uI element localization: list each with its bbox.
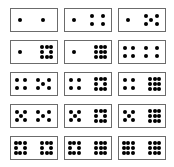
dot <box>157 119 161 123</box>
dot <box>94 141 98 145</box>
left-dot-group <box>65 105 83 127</box>
dot <box>122 146 126 150</box>
right-dot-group <box>29 41 57 63</box>
dot <box>49 50 53 54</box>
dot <box>144 14 148 18</box>
dot <box>131 86 135 90</box>
dot <box>131 46 135 50</box>
dot <box>153 151 157 155</box>
dot <box>157 141 161 145</box>
dot <box>23 146 27 150</box>
dot <box>15 118 19 122</box>
dot <box>99 87 103 91</box>
dot <box>14 141 18 145</box>
dot <box>99 141 103 145</box>
left-dot-group <box>65 41 83 63</box>
left-dot-group <box>11 73 29 95</box>
dot <box>99 50 103 54</box>
dot <box>153 114 157 118</box>
dot <box>94 87 98 91</box>
dot <box>144 54 148 58</box>
right-dot-group <box>137 105 165 127</box>
dot-card <box>118 104 166 128</box>
dot <box>23 78 27 82</box>
dot <box>99 109 103 113</box>
dot <box>23 86 27 90</box>
dot <box>40 45 44 49</box>
dot <box>45 141 49 145</box>
dot <box>103 151 107 155</box>
right-dot-group <box>137 137 165 159</box>
dot <box>18 18 22 22</box>
dot <box>131 146 135 150</box>
dot <box>126 146 130 150</box>
dot <box>153 77 157 81</box>
left-dot-group <box>65 9 83 31</box>
dot <box>23 151 27 155</box>
dot <box>49 146 53 150</box>
dot <box>103 146 107 150</box>
dot <box>68 146 72 150</box>
dot <box>69 118 73 122</box>
dot <box>23 110 27 114</box>
dot <box>18 151 22 155</box>
dot <box>45 55 49 59</box>
dot <box>157 109 161 113</box>
dot <box>41 18 45 22</box>
dot <box>148 77 152 81</box>
dot <box>47 78 51 82</box>
dot <box>157 114 161 118</box>
dot <box>148 146 152 150</box>
dot-card <box>64 72 112 96</box>
dot <box>103 119 107 123</box>
right-dot-group <box>137 41 165 63</box>
dot <box>123 46 127 50</box>
dot <box>126 18 130 22</box>
dot <box>101 14 105 18</box>
dot <box>148 109 152 113</box>
dot <box>77 151 81 155</box>
dot <box>15 110 19 114</box>
dot-card-grid <box>10 8 166 160</box>
dot <box>94 109 98 113</box>
dot <box>123 54 127 58</box>
dot <box>72 50 76 54</box>
dot <box>72 18 76 22</box>
dot <box>68 141 72 145</box>
dot <box>47 86 51 90</box>
left-dot-group <box>11 105 29 127</box>
left-dot-group <box>119 137 137 159</box>
dot <box>148 87 152 91</box>
dot <box>41 82 45 86</box>
dot <box>77 110 81 114</box>
dot <box>77 86 81 90</box>
dot <box>157 77 161 81</box>
dot <box>123 86 127 90</box>
dot <box>157 151 161 155</box>
dot <box>123 118 127 122</box>
dot <box>144 46 148 50</box>
dot-card <box>64 40 112 64</box>
dot <box>99 45 103 49</box>
dot <box>49 151 53 155</box>
dot <box>69 86 73 90</box>
dot-card <box>118 136 166 160</box>
dot <box>45 151 49 155</box>
right-dot-group <box>83 73 111 95</box>
dot <box>126 151 130 155</box>
dot <box>47 118 51 122</box>
dot <box>47 110 51 114</box>
left-dot-group <box>119 9 137 31</box>
dot <box>68 151 72 155</box>
dot <box>103 141 107 145</box>
dot <box>40 55 44 59</box>
dot <box>131 151 135 155</box>
dot <box>77 78 81 82</box>
dot <box>94 82 98 86</box>
dot <box>148 151 152 155</box>
dot <box>40 151 44 155</box>
right-dot-group <box>137 9 165 31</box>
right-dot-group <box>83 137 111 159</box>
dot <box>99 55 103 59</box>
dot <box>15 86 19 90</box>
